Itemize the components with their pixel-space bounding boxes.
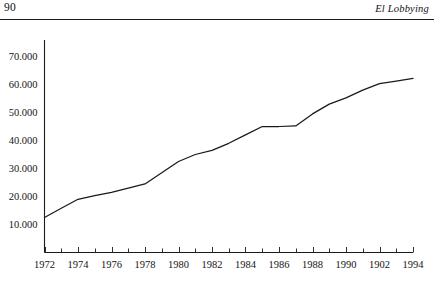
y-axis-tick-label: 10.000 <box>9 219 38 230</box>
y-axis-tick-label: 30.000 <box>9 163 38 174</box>
y-axis-tick-label: 40.000 <box>9 135 38 146</box>
x-axis-tick-label: 1994 <box>403 259 425 270</box>
line-chart-figure: 10.00020.00030.00040.00050.00060.00070.0… <box>0 22 434 283</box>
y-axis-tick-labels: 10.00020.00030.00040.00050.00060.00070.0… <box>9 51 38 230</box>
y-axis-tick-label: 70.000 <box>9 51 38 62</box>
x-axis-tick-label: 1974 <box>68 259 90 270</box>
chart-plot-area: 10.00020.00030.00040.00050.00060.00070.0… <box>0 22 434 283</box>
data-series-line <box>45 78 414 217</box>
y-axis-tick-label: 20.000 <box>9 191 38 202</box>
y-axis-tick-label: 50.000 <box>9 107 38 118</box>
page-number: 90 <box>4 1 16 14</box>
x-axis-tick-label: 1988 <box>302 259 323 270</box>
header-rule <box>0 19 434 20</box>
x-axis-tick-label: 1986 <box>269 259 290 270</box>
page-header: 90 El Lobbying <box>0 0 434 22</box>
x-axis-tick-label: 1976 <box>101 259 122 270</box>
x-axis-tick-labels: 1972197419761978198019821984198619881990… <box>34 259 424 270</box>
x-axis-tick-label: 1980 <box>168 259 189 270</box>
running-title: El Lobbying <box>375 2 429 15</box>
x-axis-tick-marks <box>46 247 414 253</box>
x-axis-tick-label: 1902 <box>369 259 390 270</box>
x-axis-tick-label: 1990 <box>336 259 357 270</box>
x-axis-tick-label: 1978 <box>135 259 156 270</box>
x-axis-tick-label: 1982 <box>202 259 223 270</box>
x-axis-tick-label: 1984 <box>235 259 257 270</box>
x-axis-tick-label: 1972 <box>34 259 55 270</box>
y-axis-tick-label: 60.000 <box>9 79 38 90</box>
